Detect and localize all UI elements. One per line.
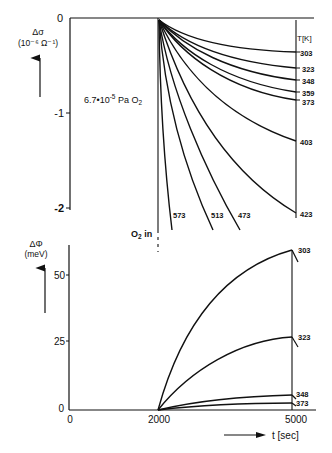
label-359: 359	[302, 89, 315, 98]
lower-ytick-50: 50	[54, 270, 66, 281]
o2-in-marker: O2 in	[131, 229, 152, 240]
xtick-2000: 2000	[148, 414, 171, 425]
lower-ylabel: ΔΦ	[29, 239, 42, 249]
curve-423	[159, 20, 296, 213]
xtick-0: 0	[67, 414, 73, 425]
work-function-curve-303	[158, 250, 292, 410]
label-423: 423	[300, 210, 313, 219]
upper-panel: 0 -1 -2 Δσ (10⁻⁶ Ω⁻¹) 6.7•10-5 Pa O2 T[K…	[18, 12, 315, 252]
upper-curves	[159, 20, 296, 230]
lower-label-348: 348	[296, 390, 309, 399]
curve-348	[159, 20, 296, 80]
lower-label-323: 323	[298, 333, 311, 342]
label-303: 303	[300, 49, 313, 58]
label-473: 473	[238, 211, 251, 220]
label-573: 573	[173, 211, 186, 220]
upper-yunit: (10⁻⁶ Ω⁻¹)	[18, 38, 58, 48]
lower-label-373: 373	[296, 399, 309, 408]
label-403: 403	[300, 138, 313, 147]
pressure-annotation: 6.7•10-5 Pa O2	[84, 93, 142, 106]
xlabel: t [sec]	[272, 430, 299, 441]
work-function-curve-373	[158, 403, 292, 410]
label-348: 348	[302, 77, 315, 86]
xtick-5000: 5000	[285, 414, 308, 425]
lower-panel: 50 25 0 0 2000 5000 ΔΦ (meV) 303 323 348	[24, 239, 316, 441]
label-513: 513	[211, 211, 224, 220]
upper-ytick-1: -1	[54, 107, 64, 119]
lower-ytick-0: 0	[58, 403, 64, 414]
lower-label-303: 303	[298, 246, 311, 255]
upper-ytick-0: 0	[57, 12, 63, 24]
figure: 0 -1 -2 Δσ (10⁻⁶ Ω⁻¹) 6.7•10-5 Pa O2 T[K…	[0, 0, 332, 453]
upper-ytick-2: -2	[54, 202, 64, 214]
upper-ylabel: Δσ	[32, 27, 44, 37]
lower-yunit: (meV)	[24, 249, 47, 259]
lower-curves	[158, 250, 292, 410]
lower-ytick-25: 25	[54, 336, 66, 347]
label-373: 373	[302, 98, 315, 107]
temperature-legend-title: T[K]	[297, 34, 312, 43]
label-323: 323	[302, 65, 315, 74]
